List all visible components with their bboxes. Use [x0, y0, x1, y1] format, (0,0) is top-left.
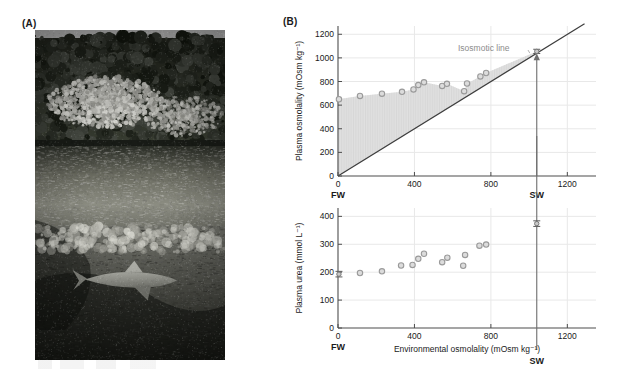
- data-point: [410, 262, 415, 267]
- data-point: [421, 80, 426, 85]
- shark-river-photo-canvas: [35, 30, 225, 360]
- x-tick-label: 400: [407, 331, 421, 341]
- photo-caption-smudge: [38, 360, 168, 369]
- y-tick-label: 1000: [308, 53, 334, 63]
- y-tick-label: 200: [308, 147, 334, 157]
- data-point: [464, 81, 469, 86]
- y-tick-label: 1200: [308, 29, 334, 39]
- panel-a-label: (A): [22, 18, 36, 29]
- x-end-label-fw: FW: [331, 190, 345, 200]
- data-point: [461, 88, 466, 93]
- data-point: [478, 74, 483, 79]
- data-point: [460, 263, 465, 268]
- panel-a-photograph: [35, 30, 225, 360]
- data-point: [416, 256, 421, 261]
- x-tick-label: 0: [336, 331, 341, 341]
- y-tick-label: 0: [308, 171, 334, 181]
- plasma-urea-plot: [338, 208, 596, 328]
- x-axis-title: Environmental osmolality (mOsm kg⁻¹): [338, 344, 596, 354]
- x-tick-label: 800: [484, 331, 498, 341]
- y-tick-label: 0: [308, 323, 334, 333]
- y-tick-label: 300: [308, 239, 334, 249]
- data-point: [421, 251, 426, 256]
- y-axis-title: Plasma osmolality (mOsm kg⁻¹): [294, 26, 304, 176]
- data-point: [399, 89, 404, 94]
- x-tick-label: 400: [407, 179, 421, 189]
- reference-point: [535, 49, 539, 53]
- data-point: [379, 91, 384, 96]
- y-tick-label: 400: [308, 211, 334, 221]
- annotation-isosmotic-line: Isosmotic line: [458, 43, 510, 53]
- y-tick-label: 800: [308, 77, 334, 87]
- y-tick-label: 200: [308, 267, 334, 277]
- x-tick-label: 1200: [558, 331, 577, 341]
- data-point: [357, 93, 362, 98]
- x-end-label-sw: SW: [530, 356, 545, 366]
- y-axis-title: Plasma urea (mmol L⁻¹): [294, 208, 304, 328]
- data-point: [462, 252, 467, 257]
- reference-point: [535, 221, 539, 225]
- data-point: [357, 270, 362, 275]
- data-point: [398, 263, 403, 268]
- data-point: [445, 255, 450, 260]
- data-point: [411, 87, 416, 92]
- x-tick-label: 800: [484, 179, 498, 189]
- data-point: [483, 242, 488, 247]
- data-point: [439, 259, 444, 264]
- x-tick-label: 0: [336, 179, 341, 189]
- data-point: [416, 82, 421, 87]
- y-tick-label: 600: [308, 100, 334, 110]
- x-tick-label: 1200: [558, 179, 577, 189]
- x-end-label-fw: FW: [331, 342, 345, 352]
- panel-b-charts: 04008001200020040060080010001200Plasma o…: [283, 8, 624, 373]
- plasma-urea-svg: [338, 208, 596, 328]
- data-point: [336, 97, 341, 102]
- data-point: [444, 81, 449, 86]
- data-point: [483, 70, 488, 75]
- data-point: [379, 269, 384, 274]
- data-point: [477, 243, 482, 248]
- y-tick-label: 100: [308, 295, 334, 305]
- y-tick-label: 400: [308, 124, 334, 134]
- reference-point: [337, 272, 341, 276]
- annotation-leader-line: [528, 50, 530, 53]
